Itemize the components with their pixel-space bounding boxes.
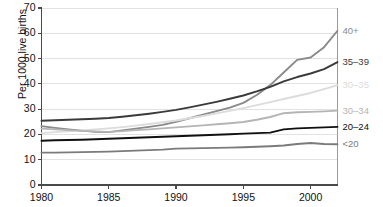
series-label--20: <20: [343, 138, 359, 149]
series-line-40-: [42, 31, 338, 132]
y-tick-label: 60: [10, 26, 36, 38]
x-tick-label: 2000: [291, 191, 331, 203]
series-line-20-24: [42, 127, 338, 141]
x-tick-label: 1990: [156, 191, 196, 203]
y-tick-label: 70: [10, 1, 36, 13]
plot-canvas: [0, 0, 383, 207]
series-label-30-35: 30–35: [343, 79, 369, 90]
x-tick-label: 1995: [223, 191, 263, 203]
y-tick-label: 30: [10, 102, 36, 114]
series-label-30-34: 30–34: [343, 105, 369, 116]
series-label-35-39: 35–39: [343, 56, 369, 67]
y-tick-label: 20: [10, 127, 36, 139]
y-tick-label: 40: [10, 77, 36, 89]
series-label-40-: 40+: [343, 25, 359, 36]
line-chart: Per 1000 live births 010203040506070 198…: [0, 0, 383, 207]
y-tick-label: 50: [10, 52, 36, 64]
series-line--20: [42, 143, 338, 153]
series-label-20-24: 20–24: [343, 121, 369, 132]
y-tick-label: 10: [10, 153, 36, 165]
y-tick-label: 0: [10, 178, 36, 190]
x-tick-label: 1980: [22, 191, 62, 203]
x-tick-label: 1985: [89, 191, 129, 203]
